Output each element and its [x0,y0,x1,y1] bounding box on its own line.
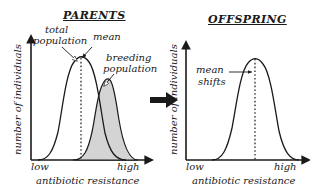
parents-x-tick-low: low [31,161,49,172]
parents-x-axis-label: antibiotic resistance [36,175,139,186]
total-population-leader-icon [62,47,77,61]
breeding-population-label-line1: breeding [106,52,151,63]
breeding-population-curve [73,79,138,160]
offspring-x-tick-low: low [186,161,204,172]
directional-selection-diagram: PARENTS total population mean breeding p… [0,0,310,192]
offspring-panel-title: OFFSPRING [208,13,287,26]
parents-y-axis-label: number of individuals [12,44,23,155]
parents-panel-title: PARENTS [63,9,126,22]
offspring-y-axis-label: number of individuals [168,44,179,155]
offspring-x-axis-label: antibiotic resistance [192,175,295,186]
breeding-population-label-line2: population [103,63,157,74]
mean-leader-icon [82,47,92,58]
mean-shifts-label-line2: shifts [198,76,226,87]
mean-shifts-label-line1: mean [196,64,224,75]
total-population-label-line1: total [45,24,68,35]
parents-x-tick-high: high [117,161,139,172]
total-population-label-line2: population [33,35,87,46]
offspring-x-tick-high: high [274,161,296,172]
mean-label: mean [93,31,121,42]
